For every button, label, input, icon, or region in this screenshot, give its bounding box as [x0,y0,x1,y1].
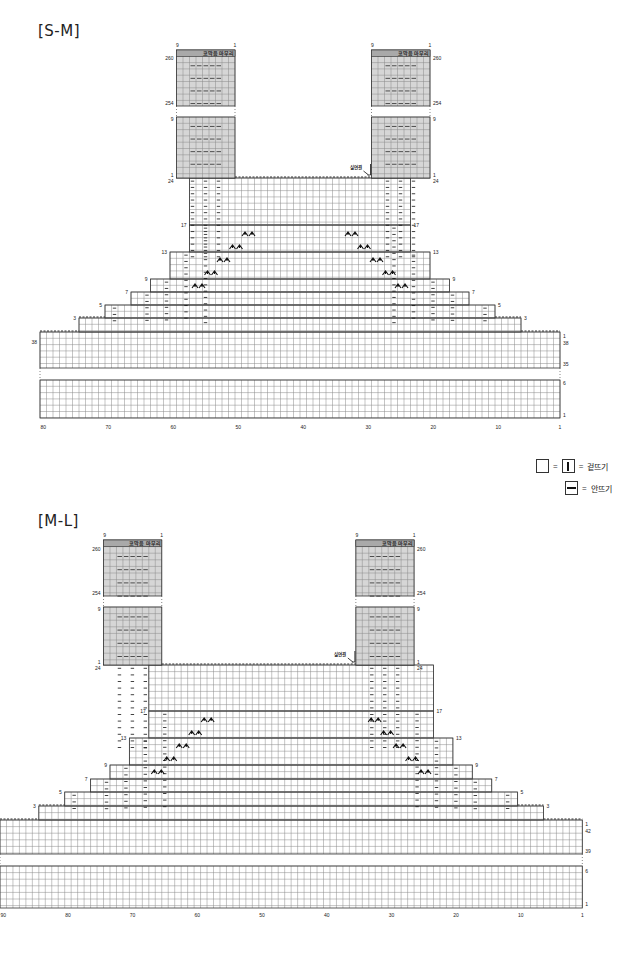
col-label: 40 [300,424,306,430]
decrease-icon [151,770,157,774]
purl-label: 안뜨기 [591,483,612,494]
row-label: 42 [585,828,591,834]
decrease-icon [189,731,195,735]
col-label: 70 [130,912,136,918]
row-label: 24 [95,665,101,671]
row-label: 35 [563,361,569,367]
row-label: 24 [417,665,423,671]
col-label: 10 [518,912,524,918]
col-label: 50 [235,424,241,430]
row-label: 260 [417,546,426,552]
decrease-icon [224,258,230,262]
row-label: 1 [563,333,566,339]
col-label: 70 [105,424,111,430]
decrease-icon [383,271,389,275]
row-label: 5 [521,789,524,795]
col-label: 1 [160,532,163,538]
col-label: 1 [559,424,562,430]
row-label: 254 [165,100,174,106]
row-label: 3 [546,803,549,809]
col-label: 1 [429,42,432,48]
col-label: 50 [259,912,265,918]
row-label: 38 [31,339,37,345]
knitting-charts: 코막음 마무리912602549124코막음 마무리912602549124실연… [0,0,625,954]
legend-purl: = 안뜨기 [565,481,612,495]
row-label: 5 [59,789,62,795]
row-label: 9 [453,276,456,282]
row-label: 17 [140,708,146,714]
row-label: 1 [585,901,588,907]
row-label: 17 [414,222,420,228]
row-label: 13 [161,249,167,255]
col-label: 1 [234,42,237,48]
row-label: 6 [563,380,566,386]
col-label: 90 [0,912,6,918]
row-label: 254 [92,590,101,596]
row-label: 9 [171,116,174,122]
legend-knit: = = 겉뜨기 [536,459,608,473]
decrease-icon [352,232,358,236]
purl-stitch-icon [565,481,578,495]
row-label: 254 [417,590,426,596]
col-label: 80 [40,424,46,430]
decrease-icon [390,271,396,275]
row-label: 260 [433,55,442,61]
row-label: 39 [585,848,591,854]
row-label: 7 [495,776,498,782]
decrease-icon [388,731,394,735]
row-label: 9 [475,762,478,768]
col-label: 20 [453,912,459,918]
decrease-icon [345,232,351,236]
row-label: 260 [92,546,101,552]
row-label: 13 [433,249,439,255]
bind-off-label: 코막음 마무리 [203,50,234,57]
col-label: 9 [103,532,106,538]
col-label: 20 [430,424,436,430]
yarn-join-label: 실연결 [334,651,346,658]
row-label: 3 [524,315,527,321]
row-label: 1 [585,821,588,827]
col-label: 40 [324,912,330,918]
row-label: 17 [436,708,442,714]
row-label: 1 [563,412,566,418]
yarn-join-label: 실연결 [350,164,362,171]
col-label: 1 [413,532,416,538]
row-label: 24 [168,178,174,184]
decrease-icon [395,284,401,288]
arrow-icon [348,651,355,662]
col-label: 9 [176,42,179,48]
row-label: 9 [433,116,436,122]
decrease-icon [370,258,376,262]
empty-cell-icon [536,459,549,473]
row-label: 254 [433,100,442,106]
row-label: 6 [585,868,588,874]
col-label: 30 [389,912,395,918]
row-label: 3 [33,803,36,809]
decrease-icon [201,718,207,722]
row-label: 24 [433,178,439,184]
row-label: 9 [145,276,148,282]
legend-equals: = [553,462,558,471]
row-label: 17 [181,222,187,228]
col-label: 60 [195,912,201,918]
row-label: 9 [417,606,420,612]
bind-off-label: 코막음 마무리 [129,540,160,547]
row-label: 5 [99,302,102,308]
decrease-icon [365,245,371,249]
bind-off-label: 코막음 마무리 [398,50,429,57]
col-label: 30 [365,424,371,430]
row-label: 260 [165,55,174,61]
col-label: 80 [65,912,71,918]
col-label: 1 [581,912,584,918]
row-label: 7 [125,289,128,295]
decrease-icon [425,770,431,774]
bind-off-label: 코막음 마무리 [382,540,413,547]
decrease-icon [375,718,381,722]
decrease-icon [230,245,236,249]
decrease-icon [192,284,198,288]
knit-stitch-icon [562,459,575,473]
row-label: 13 [456,735,462,741]
col-label: 9 [355,532,358,538]
row-label: 13 [121,735,127,741]
decrease-icon [402,284,408,288]
